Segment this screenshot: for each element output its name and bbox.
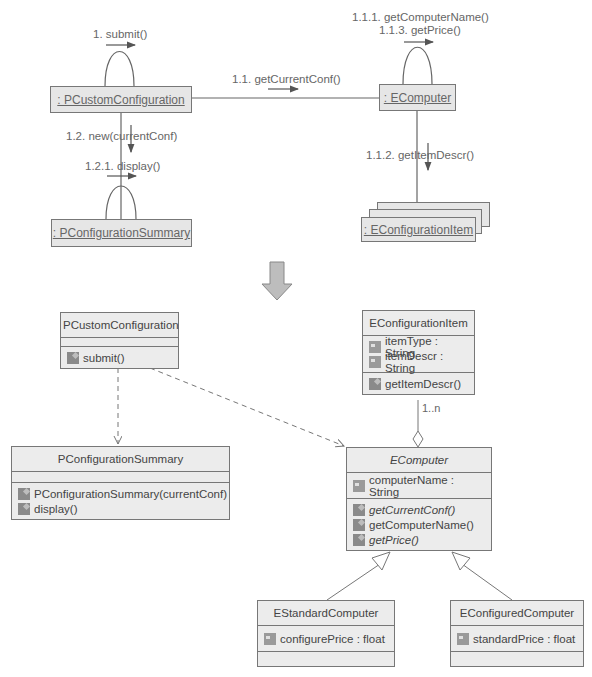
class-estandard-computer[interactable]: EStandardComputer configurePrice : float xyxy=(257,600,395,667)
attributes-section: computerName : String xyxy=(347,473,491,499)
message-label-get-current-conf: 1.1. getCurrentConf() xyxy=(232,73,341,85)
operation-row: getCurrentConf() xyxy=(353,502,485,517)
class-pconfiguration-summary[interactable]: PConfigurationSummary PConfigurationSumm… xyxy=(11,446,230,520)
operations-section: PConfigurationSummary(currentConf) displ… xyxy=(12,483,229,519)
operation-label: getComputerName() xyxy=(369,519,474,531)
attribute-label: configurePrice : float xyxy=(280,633,385,645)
attributes-section xyxy=(61,338,178,347)
attribute-label: computerName : String xyxy=(369,474,485,498)
class-name: PCustomConfiguration xyxy=(61,313,178,338)
attribute-icon xyxy=(457,633,469,645)
attribute-label: itemDescr : String xyxy=(385,350,468,374)
operation-label: getPrice() xyxy=(369,534,419,546)
object-label: : EConfigurationItem xyxy=(364,223,473,237)
message-label-display: 1.2.1. display() xyxy=(85,160,160,172)
operation-icon xyxy=(67,352,79,364)
operations-section xyxy=(258,652,394,666)
class-name: PConfigurationSummary xyxy=(12,447,229,472)
operations-section: getItemDescr() xyxy=(363,373,474,394)
class-name: EConfigurationItem xyxy=(363,311,474,336)
attribute-row: computerName : String xyxy=(353,478,485,493)
object-econfiguration-item[interactable]: : EConfigurationItem xyxy=(361,217,476,242)
operation-row: display() xyxy=(18,501,223,516)
class-econfiguration-item[interactable]: EConfigurationItem itemType : String ite… xyxy=(362,310,475,395)
operation-icon xyxy=(18,503,30,515)
object-label: : PConfigurationSummary xyxy=(53,226,190,240)
message-label-get-price: 1.1.3. getPrice() xyxy=(379,24,461,36)
attributes-section xyxy=(12,472,229,483)
operation-icon xyxy=(18,488,30,500)
attributes-section: itemType : String itemDescr : String xyxy=(363,336,474,373)
attribute-label: standardPrice : float xyxy=(473,633,575,645)
operation-label: submit() xyxy=(83,352,125,364)
message-label-get-computer-name: 1.1.1. getComputerName() xyxy=(352,11,489,23)
attribute-icon xyxy=(369,341,381,353)
message-label-submit: 1. submit() xyxy=(93,28,147,40)
class-name: EStandardComputer xyxy=(258,601,394,626)
operations-section: submit() xyxy=(61,347,178,368)
object-ecomputer[interactable]: : EComputer xyxy=(379,84,456,111)
attributes-section: configurePrice : float xyxy=(258,626,394,652)
operation-icon xyxy=(369,378,381,390)
operations-section: getCurrentConf() getComputerName() getPr… xyxy=(347,499,491,550)
operation-icon xyxy=(353,519,365,531)
attribute-icon xyxy=(369,356,381,368)
object-label: : EComputer xyxy=(384,91,451,105)
operation-label: display() xyxy=(34,503,77,515)
operation-icon xyxy=(353,504,365,516)
operation-row: getComputerName() xyxy=(353,517,485,532)
attribute-row: configurePrice : float xyxy=(264,631,388,646)
attribute-icon xyxy=(353,480,365,492)
multiplicity-label: 1..n xyxy=(422,402,440,414)
object-pcustom-configuration[interactable]: : PCustomConfiguration xyxy=(50,86,192,113)
operation-label: PConfigurationSummary(currentConf) xyxy=(34,488,227,500)
operation-row: PConfigurationSummary(currentConf) xyxy=(18,486,223,501)
attribute-icon xyxy=(264,633,276,645)
class-pcustom-configuration[interactable]: PCustomConfiguration submit() xyxy=(60,312,179,369)
operation-row: getPrice() xyxy=(353,532,485,547)
operation-label: getCurrentConf() xyxy=(369,504,455,516)
class-name: EConfiguredComputer xyxy=(451,601,583,626)
message-label-get-item-descr: 1.1.2. getItemDescr() xyxy=(366,149,474,161)
object-pconfiguration-summary[interactable]: : PConfigurationSummary xyxy=(51,219,192,247)
class-name: EComputer xyxy=(347,448,491,473)
attribute-row: standardPrice : float xyxy=(457,631,577,646)
operation-row: getItemDescr() xyxy=(369,376,468,391)
operation-row: submit() xyxy=(67,350,172,365)
operations-section xyxy=(451,652,583,666)
class-econfigured-computer[interactable]: EConfiguredComputer standardPrice : floa… xyxy=(450,600,584,667)
class-ecomputer[interactable]: EComputer computerName : String getCurre… xyxy=(346,447,492,551)
attribute-row: itemDescr : String xyxy=(369,354,468,369)
operation-label: getItemDescr() xyxy=(385,378,461,390)
attributes-section: standardPrice : float xyxy=(451,626,583,652)
operation-icon xyxy=(353,534,365,546)
object-label: : PCustomConfiguration xyxy=(57,93,184,107)
message-label-new-current-conf: 1.2. new(currentConf) xyxy=(66,130,177,142)
